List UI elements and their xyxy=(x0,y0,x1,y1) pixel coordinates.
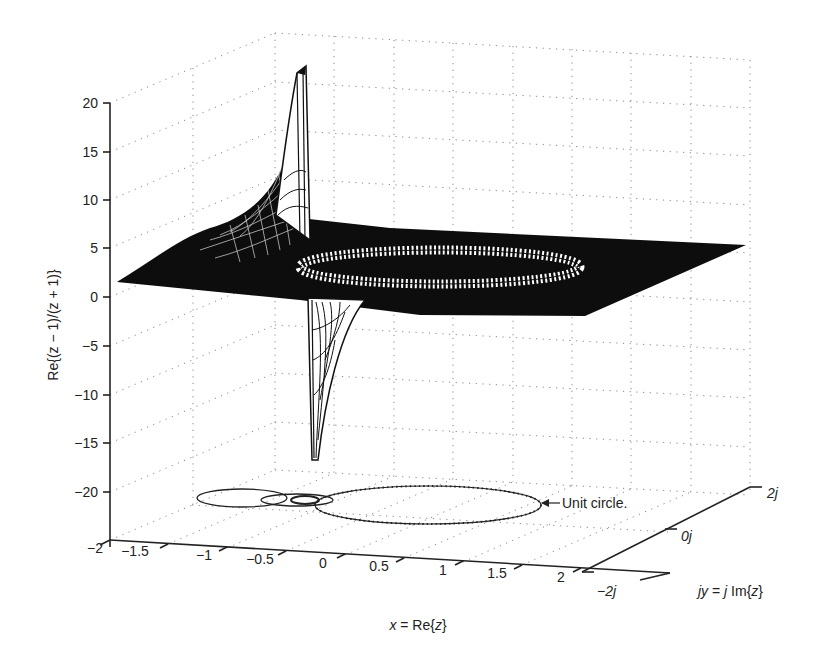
z-tick: −5 xyxy=(82,338,98,354)
negative-spike xyxy=(308,298,365,460)
annotation-text: Unit circle. xyxy=(562,495,627,511)
y-tick: 0j xyxy=(681,528,693,544)
x-tick: 0 xyxy=(319,555,327,571)
z-tick: −20 xyxy=(74,484,98,500)
z-axis-label: Re{(z − 1)/(z + 1)} xyxy=(45,269,61,381)
z-tick: 15 xyxy=(82,144,98,160)
y-tick: −2j xyxy=(597,583,617,599)
z-tick: 0 xyxy=(90,289,98,305)
z-tick: −15 xyxy=(74,435,98,451)
surface-plot: Unit circle. xyxy=(0,0,823,660)
surface xyxy=(117,66,746,460)
x-tick: 1.5 xyxy=(487,565,507,581)
z-tick: 5 xyxy=(90,240,98,256)
unit-circle-projection xyxy=(197,486,541,524)
x-tick: −1 xyxy=(196,547,212,563)
x-tick: −1.5 xyxy=(121,543,149,559)
unit-circle-annotation: Unit circle. xyxy=(541,495,627,511)
x-tick: 0.5 xyxy=(369,558,389,574)
x-tick: −0.5 xyxy=(246,551,274,567)
z-tick: 20 xyxy=(82,95,98,111)
x-axis: −2 −1.5 −1 −0.5 0 0.5 1 1.5 2 x = Re{z} xyxy=(87,540,670,633)
x-tick: 2 xyxy=(557,569,565,585)
y-tick: 2j xyxy=(766,485,779,501)
x-axis-label: x = Re{z} xyxy=(388,617,447,633)
z-axis: 20 15 10 5 0 −5 −10 −15 −20 Re{(z − 1)/(… xyxy=(45,95,110,547)
y-axis-label: jy = j Im{z} xyxy=(696,583,763,599)
x-tick: −2 xyxy=(87,540,103,556)
z-tick: −10 xyxy=(74,387,98,403)
z-tick: 10 xyxy=(82,192,98,208)
x-tick: 1 xyxy=(439,562,447,578)
positive-spike xyxy=(276,66,310,240)
